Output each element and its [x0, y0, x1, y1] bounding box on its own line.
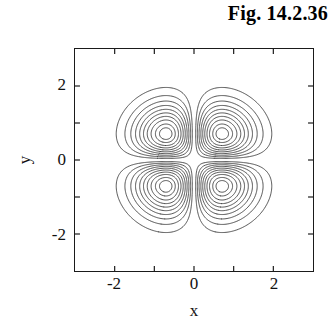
x-tick-label: 2 — [270, 274, 279, 294]
contour-line — [207, 172, 241, 204]
contour-line — [147, 172, 181, 204]
contour-line — [216, 181, 228, 193]
contour-line — [159, 128, 171, 140]
figure-title: Fig. 14.2.36 — [228, 2, 328, 25]
contour-line — [159, 181, 171, 193]
figure-page: Fig. 14.2.36 -2 0 2 2 0 -2 x y — [0, 0, 334, 327]
y-tick-label: 2 — [58, 75, 67, 95]
contour-plot-canvas — [75, 49, 313, 271]
y-tick-label: -2 — [52, 225, 66, 245]
contour-line — [216, 128, 228, 140]
x-tick-label: 0 — [190, 274, 199, 294]
y-axis-title: y — [15, 156, 35, 165]
x-tick-label: -2 — [107, 274, 121, 294]
contour-line — [147, 116, 181, 148]
contour-line — [207, 116, 241, 148]
y-tick-label: 0 — [58, 150, 67, 170]
x-axis-title: x — [190, 301, 199, 321]
plot-frame — [74, 48, 314, 272]
